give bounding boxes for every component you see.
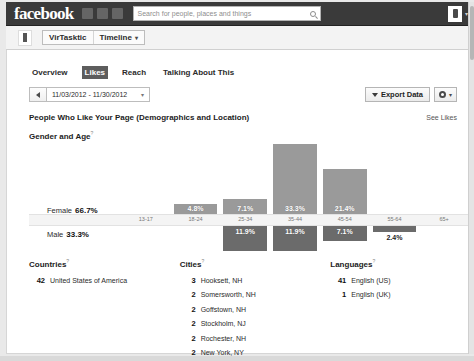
chart-column-45-54: 21.4%7.1%45-54: [320, 140, 370, 255]
bar-value-label: 7.1%: [237, 205, 253, 214]
city-name: Somersworth, NH: [201, 291, 256, 298]
section-header: People Who Like Your Page (Demographics …: [29, 113, 457, 122]
list-item[interactable]: 2 Rochester, NH: [180, 334, 315, 343]
list-item[interactable]: 3 Hooksett, NH: [180, 276, 315, 285]
help-icon[interactable]: ?: [66, 258, 69, 264]
friend-requests-icon[interactable]: [82, 8, 93, 19]
browser-page: facebook Search for people, places and t…: [0, 0, 474, 361]
gender-age-chart: Female66.7% Male33.3% 13-174.8%18-247.1%…: [29, 140, 469, 255]
bar-value-label: 11.9%: [236, 226, 255, 235]
download-icon: [372, 93, 378, 97]
page-avatar[interactable]: [18, 30, 32, 46]
cities-label: Cities: [180, 260, 202, 269]
bar-value-label: 2.4%: [370, 234, 420, 241]
bar-female-18-24[interactable]: 4.8%: [174, 204, 218, 214]
countries-title: Countries?: [29, 258, 172, 269]
help-icon[interactable]: ?: [201, 258, 204, 264]
page-view-timeline-button[interactable]: Timeline ▾: [93, 31, 144, 44]
cities-list: 3 Hooksett, NH 2 Somersworth, NH 2 Goffs…: [180, 276, 315, 358]
city-name: Rochester, NH: [201, 335, 247, 342]
bar-female-25-34[interactable]: 7.1%: [223, 199, 267, 214]
bar-male-35-44[interactable]: 11.9%: [273, 226, 317, 251]
settings-button[interactable]: ▾: [434, 87, 457, 102]
chart-column-18-24: 4.8%18-24: [171, 140, 221, 255]
city-count: 2: [180, 305, 196, 314]
axis-tick-18-24: 18-24: [171, 216, 221, 222]
chart-column-65plus: 65+: [419, 140, 469, 255]
scrollbar-thumb[interactable]: [470, 6, 474, 60]
topbar-icon-group: [82, 8, 123, 19]
axis-tick-25-34: 25-34: [220, 216, 270, 222]
cities-title: Cities?: [180, 258, 315, 269]
avatar[interactable]: [448, 6, 462, 22]
tab-talking-about-this[interactable]: Talking About This: [160, 66, 237, 79]
help-icon[interactable]: ?: [91, 130, 94, 136]
page-view-label: Timeline: [100, 33, 132, 42]
country-name: United States of America: [50, 277, 127, 284]
city-name: Hooksett, NH: [201, 277, 243, 284]
date-range-select[interactable]: 11/03/2012 - 11/30/2012 ▾: [47, 87, 150, 102]
list-item[interactable]: 2 Stockholm, NJ: [180, 319, 315, 328]
chart-plot-area: 13-174.8%18-247.1%11.9%25-3433.3%11.9%35…: [121, 140, 469, 255]
list-item[interactable]: 2 Goffstown, NH: [180, 305, 315, 314]
chevron-down-icon: ▾: [141, 91, 144, 98]
gear-icon: [439, 91, 446, 98]
bar-value-label: 7.1%: [337, 226, 353, 235]
chart-column-25-34: 7.1%11.9%25-34: [220, 140, 270, 255]
countries-label: Countries: [29, 260, 66, 269]
language-name: English (US): [351, 277, 390, 284]
language-count: 1: [330, 290, 346, 299]
bar-value-label: 4.8%: [188, 205, 204, 214]
page-nav: VirTasktic Timeline ▾: [42, 30, 145, 45]
date-range-value: 11/03/2012 - 11/30/2012: [52, 91, 127, 98]
tab-likes[interactable]: Likes: [82, 66, 108, 79]
chart-column-55-64: 2.4%55-64: [370, 140, 420, 255]
bar-male-55-64[interactable]: [373, 226, 417, 232]
search-icon: [310, 11, 316, 17]
bar-value-label: 11.9%: [285, 226, 304, 235]
window-bottom-edge: [0, 356, 474, 361]
bar-female-45-54[interactable]: 21.4%: [323, 169, 367, 214]
list-item[interactable]: 1 English (UK): [330, 290, 457, 299]
page-identity-bar: VirTasktic Timeline ▾: [6, 26, 472, 50]
bar-male-25-34[interactable]: 11.9%: [223, 226, 267, 251]
insights-tabs: Overview Likes Reach Talking About This: [29, 66, 237, 79]
page-name-button[interactable]: VirTasktic: [43, 31, 93, 44]
bar-male-45-54[interactable]: 7.1%: [323, 226, 367, 241]
language-count: 41: [330, 276, 346, 285]
languages-label: Languages: [330, 260, 372, 269]
action-buttons: Export Data ▾: [365, 87, 457, 102]
insights-panel: Overview Likes Reach Talking About This …: [6, 50, 472, 354]
export-data-label: Export Data: [381, 90, 423, 99]
prev-period-button[interactable]: [29, 87, 47, 102]
demographics-columns: Countries? 42 United States of America C…: [29, 258, 457, 350]
city-count: 2: [180, 290, 196, 299]
facebook-logo[interactable]: facebook: [14, 4, 74, 24]
axis-tick-65plus: 65+: [419, 216, 469, 222]
chart-column-35-44: 33.3%11.9%35-44: [270, 140, 320, 255]
legend-male-value: 33.3%: [66, 230, 89, 239]
chart-column-13-17: 13-17: [121, 140, 171, 255]
bar-female-35-44[interactable]: 33.3%: [273, 144, 317, 214]
languages-list: 41 English (US) 1 English (UK): [330, 276, 457, 300]
legend-male: Male33.3%: [47, 230, 89, 239]
prev-arrow-icon: [36, 92, 40, 98]
chevron-down-icon: ▾: [449, 91, 452, 98]
list-item[interactable]: 2 Somersworth, NH: [180, 290, 315, 299]
list-item[interactable]: 41 English (US): [330, 276, 457, 285]
export-data-button[interactable]: Export Data: [365, 87, 430, 102]
tab-reach[interactable]: Reach: [119, 66, 149, 79]
tab-overview[interactable]: Overview: [29, 66, 71, 79]
list-item[interactable]: 42 United States of America: [29, 276, 172, 285]
legend-male-label: Male: [47, 230, 63, 239]
language-name: English (UK): [351, 291, 390, 298]
facebook-top-bar: facebook Search for people, places and t…: [6, 2, 472, 26]
page-scrollbar[interactable]: [468, 2, 474, 354]
help-icon[interactable]: ?: [373, 258, 376, 264]
axis-tick-45-54: 45-54: [320, 216, 370, 222]
search-input[interactable]: Search for people, places and things: [133, 6, 321, 21]
legend-female: Female66.7%: [47, 206, 98, 215]
see-likes-link[interactable]: See Likes: [426, 114, 457, 121]
notifications-icon[interactable]: [112, 8, 123, 19]
messages-icon[interactable]: [97, 8, 108, 19]
